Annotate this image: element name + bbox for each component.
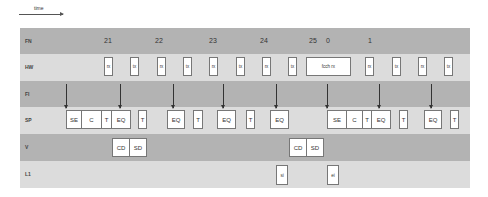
row-l1: L1 [20, 161, 470, 188]
frame-number: 1 [368, 37, 372, 44]
sp-box: EQ [270, 110, 289, 129]
sp-box: EQ [424, 110, 442, 129]
frame-number: 0 [326, 37, 330, 44]
frame-number: 24 [260, 37, 268, 44]
hw-box: rx [262, 57, 271, 76]
hw-box: rx [209, 57, 218, 76]
arrow-icon [379, 84, 380, 108]
arrow-icon [66, 84, 67, 108]
hw-box: rx [104, 57, 113, 76]
row-label-fn: FN [25, 38, 32, 44]
row-v: V [20, 134, 470, 161]
v-box: SD [129, 138, 147, 157]
sp-box: C [346, 110, 363, 129]
sp-box: SE [66, 110, 82, 129]
hw-box: rx [157, 57, 166, 76]
arrow-icon [120, 84, 121, 108]
sp-box: T [193, 110, 203, 129]
hw-box: rx [365, 57, 374, 76]
hw-box: rx [418, 57, 427, 76]
hw-box: tx [236, 57, 245, 76]
time-arrow-icon [19, 14, 63, 15]
row-label-sp: SP [25, 117, 32, 123]
arrow-icon [276, 84, 277, 108]
hw-box: tx [288, 57, 297, 76]
row-label-fi: FI [25, 91, 29, 97]
l1-box: si [276, 165, 288, 185]
hw-box: tx [130, 57, 139, 76]
time-label: time [34, 5, 43, 11]
arrow-icon [223, 84, 224, 108]
sp-box: EQ [217, 110, 236, 129]
row-fn: FN [20, 28, 470, 54]
v-box: SD [306, 138, 324, 157]
frame-number: 21 [104, 37, 112, 44]
row-fi: FI [20, 81, 470, 107]
sp-box: C [81, 110, 102, 129]
sp-box: EQ [111, 110, 131, 129]
row-label-v: V [25, 144, 28, 150]
frame-number: 23 [209, 37, 217, 44]
sp-box: SE [327, 110, 347, 129]
row-label-l1: L1 [25, 171, 31, 177]
row-label-hw: HW [25, 64, 33, 70]
arrow-icon [173, 84, 174, 108]
sp-box: EQ [371, 110, 391, 129]
sp-box: T [450, 110, 459, 129]
l1-box: ei [327, 165, 339, 185]
sp-box: T [138, 110, 147, 129]
timing-diagram: FN HW FI SP V L1 21 22 23 24 25 0 1 rx t… [20, 28, 470, 188]
hw-box: tx [183, 57, 192, 76]
hw-box: tx [392, 57, 401, 76]
hw-box: tx [444, 57, 453, 76]
v-box: CD [289, 138, 307, 157]
row-hw: HW [20, 54, 470, 81]
frame-number: 22 [155, 37, 163, 44]
sp-box: T [246, 110, 255, 129]
hw-box-fcch: fcch rx [306, 57, 351, 76]
v-box: CD [112, 138, 130, 157]
arrow-icon [327, 84, 328, 108]
sp-box: EQ [167, 110, 185, 129]
frame-number: 25 [309, 37, 317, 44]
arrow-icon [431, 84, 432, 108]
sp-box: T [399, 110, 408, 129]
